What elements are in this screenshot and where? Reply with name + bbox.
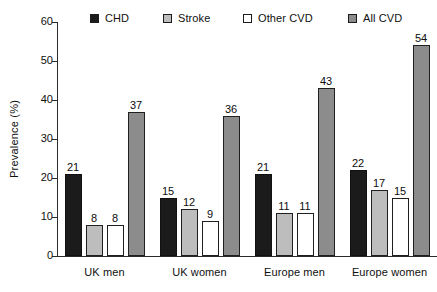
bar: 22 xyxy=(350,170,367,256)
bar-value-label: 15 xyxy=(394,185,406,197)
bar: 43 xyxy=(318,88,335,256)
bar: 12 xyxy=(181,209,198,256)
bar-value-label: 21 xyxy=(67,161,79,173)
bar: 37 xyxy=(128,112,145,256)
y-axis-tick-label: 60 xyxy=(41,15,53,28)
y-axis-line xyxy=(57,22,58,256)
y-axis-tick-label: 50 xyxy=(41,54,53,67)
bar-value-label: 12 xyxy=(183,196,195,208)
x-axis-group-label: Europe men xyxy=(264,266,325,278)
bar: 36 xyxy=(223,116,240,256)
y-axis-tick-label: 40 xyxy=(41,93,53,106)
bar-value-label: 11 xyxy=(299,200,310,212)
x-axis-group-label: Europe women xyxy=(352,266,427,278)
bar: 8 xyxy=(86,225,103,256)
plot-area: 0102030405060218837151293621111143221715… xyxy=(57,22,437,256)
y-axis-title: Prevalence (%) xyxy=(6,22,22,256)
y-axis-tick-label: 20 xyxy=(41,171,53,184)
bar: 11 xyxy=(276,213,293,256)
bar-value-label: 9 xyxy=(207,208,213,220)
bar-value-label: 8 xyxy=(112,212,118,224)
bar: 11 xyxy=(297,213,314,256)
bar-value-label: 15 xyxy=(162,185,174,197)
bar: 21 xyxy=(255,174,272,256)
bar: 9 xyxy=(202,221,219,256)
bar: 8 xyxy=(107,225,124,256)
bar-value-label: 36 xyxy=(225,103,237,115)
y-axis-tick-label: 0 xyxy=(47,249,53,262)
x-axis-group-label: UK women xyxy=(172,266,227,278)
bar: 15 xyxy=(160,198,177,257)
y-axis-tick-label: 30 xyxy=(41,132,53,145)
x-axis-line xyxy=(57,256,437,257)
bar: 17 xyxy=(371,190,388,256)
bar-value-label: 22 xyxy=(352,157,364,169)
bar-chart-figure: CHD Stroke Other CVD All CVD Prevalence … xyxy=(0,0,437,292)
bar-value-label: 21 xyxy=(257,161,269,173)
bar-value-label: 17 xyxy=(373,177,385,189)
bar-value-label: 43 xyxy=(320,75,332,87)
bar-value-label: 37 xyxy=(130,99,142,111)
bar: 15 xyxy=(392,198,409,257)
bar: 54 xyxy=(413,45,430,256)
x-axis-group-label: UK men xyxy=(84,266,124,278)
bar-value-label: 11 xyxy=(278,200,289,212)
bar-value-label: 8 xyxy=(91,212,97,224)
bar: 21 xyxy=(65,174,82,256)
bar-value-label: 54 xyxy=(415,32,427,44)
y-axis-tick-label: 10 xyxy=(41,210,53,223)
